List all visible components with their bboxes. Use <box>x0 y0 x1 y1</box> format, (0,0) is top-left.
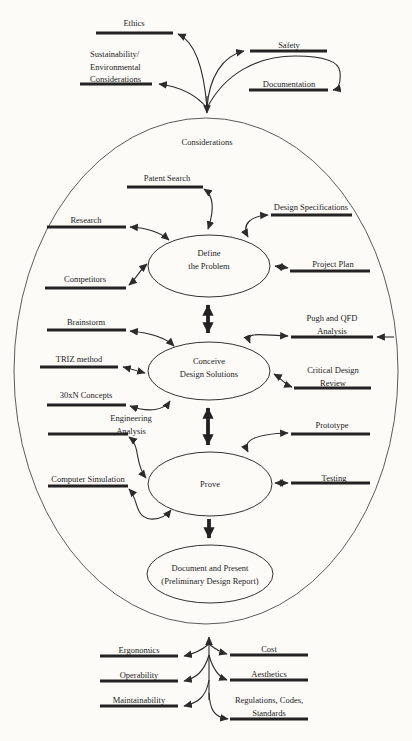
prove-label: Prove <box>149 478 271 491</box>
design-specifications-label: Design Specifications <box>269 202 353 213</box>
triz-arrow <box>123 367 145 373</box>
aesthetics-arrow <box>209 655 227 680</box>
concepts-30xn-label: 30xN Concepts <box>46 390 126 401</box>
critical-design-arrow <box>274 374 292 387</box>
safety-label: Safety <box>250 40 328 51</box>
ergonomics-arrow <box>184 644 209 656</box>
competitors-label: Competitors <box>45 274 125 285</box>
triz-label: TRIZ method <box>39 354 119 365</box>
patent-search-arrow <box>204 189 212 229</box>
ethics-arrow <box>178 34 207 108</box>
engineering-analysis-label: Engineering Analysis <box>91 412 171 437</box>
brainstorm-arrow <box>130 331 174 346</box>
research-label: Research <box>46 215 126 226</box>
project-plan-arrow <box>275 266 288 268</box>
ethics-label: Ethics <box>95 18 173 29</box>
operability-arrow <box>184 655 209 681</box>
maintainability-label: Maintainability <box>100 695 178 706</box>
cost-arrow <box>209 644 227 654</box>
considerations-label: Considerations <box>167 137 247 148</box>
prototype-arrow <box>247 433 288 452</box>
sustainability-label: Sustainability/ Environmental Considerat… <box>90 48 160 86</box>
patent-search-label: Patent Search <box>127 173 207 184</box>
design-process-diagram: Considerations Ethics Safety Sustainabil… <box>0 0 412 741</box>
prototype-label: Prototype <box>292 420 372 431</box>
cost-label: Cost <box>230 644 308 655</box>
define-problem-label: Define the Problem <box>148 247 270 273</box>
pugh-qfd-label: Pugh and QFD Analysis <box>291 312 373 337</box>
maintainability-arrow <box>184 680 209 706</box>
testing-label: Testing <box>294 473 374 484</box>
research-arrow <box>130 227 169 240</box>
aesthetics-label: Aesthetics <box>230 669 308 680</box>
project-plan-label: Project Plan <box>293 259 373 270</box>
ergonomics-label: Ergonomics <box>100 645 178 656</box>
competitors-arrow <box>129 264 147 285</box>
brainstorm-label: Brainstorm <box>46 317 126 328</box>
document-present-label: Document and Present (Preliminary Design… <box>139 562 281 588</box>
regulations-label: Regulations, Codes, Standards <box>222 694 316 719</box>
engineering-analysis-arrow <box>129 437 146 478</box>
conceive-solutions-label: Conceive Design Solutions <box>148 355 270 381</box>
sustainability-arrow <box>159 84 207 108</box>
critical-design-label: Critical Design Review <box>292 364 374 389</box>
documentation-label: Documentation <box>248 79 330 90</box>
computer-simulation-label: Computer Simulation <box>46 474 130 485</box>
design-specifications-arrow <box>246 215 268 237</box>
concepts-30xn-arrow <box>130 401 170 410</box>
pugh-qfd-arrow <box>249 335 288 343</box>
operability-label: Operability <box>100 670 178 681</box>
